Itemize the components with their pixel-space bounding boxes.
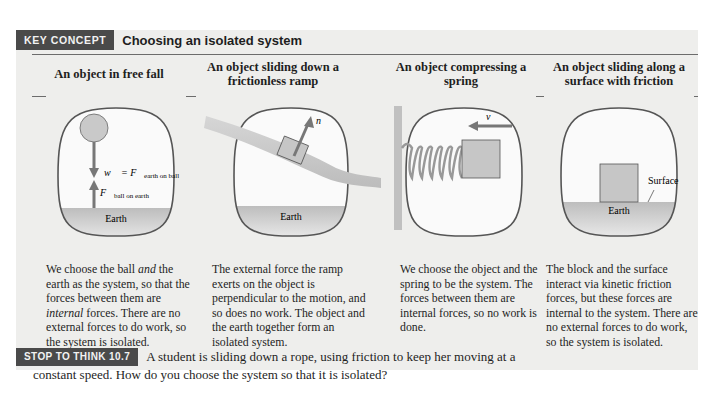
column-heading-friction: An object sliding along a surface with f… [544, 56, 694, 92]
stop-to-think: STOP TO THINK 10.7 A student is sliding … [16, 348, 698, 384]
column-heading-spring: An object compressing a spring [386, 56, 536, 92]
block [600, 164, 638, 202]
ball [80, 114, 108, 142]
column-heading-free-fall: An object in free fall [34, 56, 184, 92]
description-ramp: The external force the ramp exerts on th… [212, 262, 370, 350]
top-rule [32, 54, 698, 55]
description-friction: The block and the surface interact via k… [546, 262, 698, 350]
key-concept-panel: KEY CONCEPT Choosing an isolated system … [16, 30, 698, 370]
block [462, 140, 500, 178]
description-free-fall: We choose the ball and the earth as the … [46, 262, 196, 350]
stop-to-think-question-line2: constant speed. How do you choose the sy… [33, 366, 698, 384]
earth-label: Earth [105, 213, 127, 224]
key-concept-header: KEY CONCEPT Choosing an isolated system [16, 30, 302, 50]
free-fall-diagram: w⃗ = F⃗earth on ball F⃗ball on earth Ear… [46, 96, 186, 246]
velocity-label: v⃗ [486, 111, 498, 122]
earth-label: Earth [280, 211, 302, 222]
friction-diagram: Surface Earth [544, 96, 694, 246]
wall [394, 106, 402, 230]
normal-force-label: n⃗ [316, 115, 329, 126]
spring-diagram: v⃗ [386, 96, 536, 246]
ramp-diagram: n⃗ Earth [196, 96, 386, 246]
surface-label: Surface [648, 175, 679, 186]
column-heading-ramp: An object sliding down a frictionless ra… [198, 56, 348, 92]
stop-to-think-question-line1: A student is sliding down a rope, using … [146, 349, 515, 365]
key-concept-tag: KEY CONCEPT [16, 30, 114, 50]
stop-to-think-tag: STOP TO THINK 10.7 [16, 348, 138, 366]
key-concept-title: Choosing an isolated system [122, 33, 302, 48]
description-spring: We choose the object and the spring to b… [400, 262, 538, 335]
earth-label: Earth [608, 205, 630, 216]
